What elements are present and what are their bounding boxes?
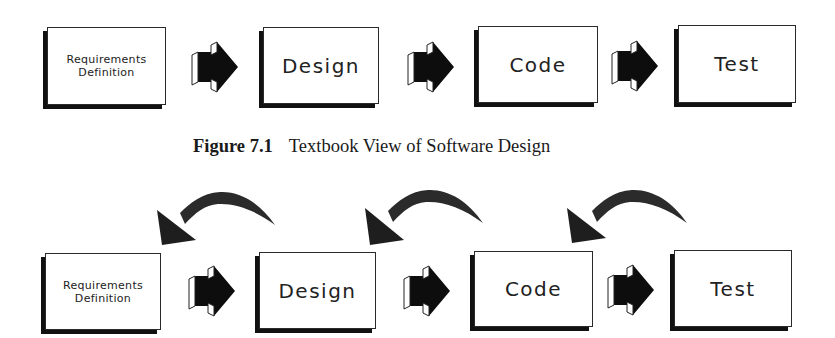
box-code: Code	[474, 251, 593, 327]
figure-number: Figure 7.1	[193, 136, 273, 156]
block-arrow-right-icon	[191, 41, 239, 93]
box-label: Code	[505, 277, 562, 301]
box-label: Code	[509, 53, 566, 77]
box-design: Design	[263, 27, 379, 104]
box-label: Requirements Definition	[63, 279, 143, 305]
figure-caption: Figure 7.1Textbook View of Software Desi…	[193, 136, 550, 157]
curved-arrow-back-icon	[560, 183, 690, 248]
box-label: Requirements Definition	[66, 53, 146, 79]
block-arrow-right-icon	[407, 41, 455, 93]
box-label: Design	[282, 54, 360, 78]
block-arrow-right-icon	[188, 265, 236, 317]
box-test: Test	[678, 25, 796, 103]
box-label: Test	[710, 277, 755, 301]
box-requirements-definition: Requirements Definition	[47, 27, 166, 105]
box-design: Design	[259, 252, 376, 329]
box-label: Test	[714, 52, 759, 76]
figure-title: Textbook View of Software Design	[289, 136, 550, 156]
block-arrow-right-icon	[607, 264, 655, 316]
block-arrow-right-icon	[611, 40, 659, 92]
box-code: Code	[478, 26, 598, 103]
box-test: Test	[674, 250, 792, 327]
box-label: Design	[278, 279, 356, 303]
curved-arrow-back-icon	[150, 185, 280, 250]
curved-arrow-back-icon	[358, 183, 488, 248]
block-arrow-right-icon	[403, 265, 451, 317]
box-requirements-definition: Requirements Definition	[45, 253, 161, 330]
diagram-canvas: Requirements Definition Design Code Test…	[0, 0, 835, 338]
